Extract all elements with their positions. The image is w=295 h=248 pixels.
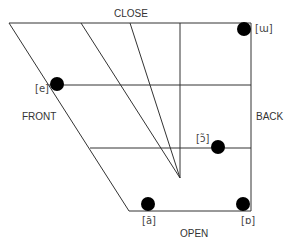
central-line-1 [81,23,180,178]
front-label: FRONT [22,112,56,122]
vowel-label-open-front: [ã] [142,216,156,226]
central-line-2 [130,23,180,178]
vowel-dot-open-front [141,197,155,211]
vowel-dot-close-back [237,22,251,36]
vowel-label-close-mid-front: [e] [35,84,49,94]
vowel-dot-open-back [236,197,250,211]
close-label: CLOSE [114,9,148,19]
vowel-label-close-back: [ɯ] [255,24,273,34]
back-label: BACK [256,112,283,122]
vowel-dot-open-mid-back [211,140,225,154]
vowel-label-open-mid-back: [ɔ̃] [196,134,209,144]
vowel-label-open-back: [ɒ] [241,216,255,226]
vowel-chart [0,0,295,248]
vowel-dot-close-mid-front [50,77,64,91]
open-label: OPEN [180,229,208,239]
